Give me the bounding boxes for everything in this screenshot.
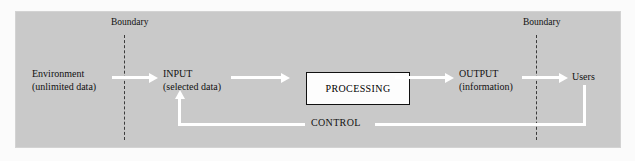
node-output-line1: OUTPUT <box>459 68 498 79</box>
diagram-panel: Boundary Boundary Environment (unlimited… <box>15 11 621 148</box>
arrow-output-to-users-head <box>559 73 568 83</box>
node-environment-line2: (unlimited data) <box>32 81 96 94</box>
boundary-label-right: Boundary <box>523 17 560 29</box>
control-line-vertical-right <box>583 85 586 126</box>
arrow-input-to-processing-shaft <box>231 76 282 79</box>
control-line-horizontal-left <box>178 123 305 126</box>
node-output-line2: (information) <box>459 81 513 94</box>
arrow-processing-to-output-shaft <box>395 76 446 79</box>
boundary-line-left <box>124 35 125 140</box>
diagram-canvas: Boundary Boundary Environment (unlimited… <box>0 0 635 161</box>
node-input-line2: (selected data) <box>163 81 221 94</box>
control-line-horizontal-right <box>375 123 586 126</box>
node-output: OUTPUT (information) <box>459 68 513 93</box>
node-environment: Environment (unlimited data) <box>32 68 96 93</box>
node-input: INPUT (selected data) <box>163 68 221 93</box>
node-environment-line1: Environment <box>32 68 84 79</box>
arrow-environment-to-input-head <box>149 73 158 83</box>
arrow-processing-to-output-head <box>445 73 454 83</box>
arrow-output-to-users-shaft <box>522 76 560 79</box>
node-processing-label: PROCESSING <box>325 83 390 94</box>
boundary-label-left: Boundary <box>111 17 148 29</box>
control-label: CONTROL <box>311 117 361 130</box>
arrow-environment-to-input-shaft <box>112 76 150 79</box>
node-users: Users <box>572 71 595 84</box>
control-line-vertical-left <box>178 98 181 126</box>
control-arrow-head-into-input <box>175 90 185 99</box>
arrow-input-to-processing-head <box>281 73 290 83</box>
node-input-line1: INPUT <box>163 68 192 79</box>
